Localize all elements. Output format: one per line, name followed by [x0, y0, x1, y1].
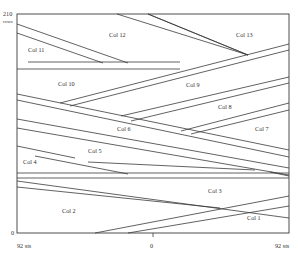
col-12-label: Col 12 — [109, 31, 126, 38]
col-9-label: Col 9 — [186, 81, 200, 88]
divider-line — [17, 94, 289, 150]
col-8-label: Col 8 — [218, 103, 232, 110]
col-4-label: Col 4 — [23, 158, 37, 165]
col-5-label: Col 5 — [88, 147, 102, 154]
divider-line — [17, 187, 220, 208]
knitting-chart-diagram: 210 rows 0 92 sts 0 92 sts Col 1 Col 2 C… — [0, 0, 298, 256]
divider-line — [128, 206, 289, 233]
divider-line — [191, 110, 289, 134]
divider-line — [148, 14, 248, 55]
col-10-label: Col 10 — [58, 80, 75, 87]
y-axis-top-unit: rows — [3, 19, 13, 24]
col-13-label: Col 13 — [236, 31, 253, 38]
x-axis-center-label: 0 — [150, 242, 153, 249]
col-2-label: Col 2 — [62, 207, 76, 214]
divider-line — [17, 146, 75, 158]
col-11-label: Col 11 — [28, 46, 44, 53]
col-3-label: Col 3 — [208, 187, 222, 194]
divider-line — [88, 162, 255, 170]
col-7-label: Col 7 — [255, 125, 269, 132]
divider-line — [121, 77, 289, 116]
y-axis-top-value: 210 — [3, 10, 12, 17]
x-axis-right-label: 92 sts — [275, 242, 290, 249]
col-6-label: Col 6 — [117, 125, 131, 132]
divider-line — [17, 24, 128, 63]
divider-line — [117, 14, 248, 55]
divider-line — [181, 103, 289, 131]
divider-line — [35, 156, 128, 174]
y-axis-bottom-value: 0 — [11, 229, 14, 236]
divider-line — [60, 44, 289, 103]
divider-line — [70, 50, 289, 106]
divider-line — [17, 128, 289, 175]
col-1-label: Col 1 — [247, 214, 261, 221]
x-axis-left-label: 92 sts — [17, 242, 32, 249]
divider-line — [131, 83, 289, 121]
